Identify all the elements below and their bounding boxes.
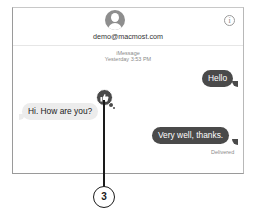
message-bubble-outgoing[interactable]: Very well, thanks.: [152, 127, 229, 144]
avatar-head: [111, 13, 119, 22]
person-silhouette-icon[interactable]: [105, 10, 125, 30]
delivery-status: Delivered: [211, 149, 234, 155]
thread-timestamp: Yesterday 3:53 PM: [13, 56, 243, 63]
tapback-tail-dot: [113, 107, 115, 109]
info-icon[interactable]: i: [224, 15, 235, 26]
callout-number: 3: [93, 186, 115, 208]
message-bubble-outgoing[interactable]: Hello: [202, 70, 233, 87]
avatar-body: [108, 23, 122, 30]
conversation-header: demo@macmost.com i: [13, 8, 243, 46]
message-bubble-incoming[interactable]: Hi. How are you?: [22, 103, 98, 120]
callout-line: [103, 100, 105, 187]
messages-window: demo@macmost.com i iMessage Yesterday 3:…: [12, 7, 244, 174]
contact-name[interactable]: demo@macmost.com: [13, 32, 243, 41]
